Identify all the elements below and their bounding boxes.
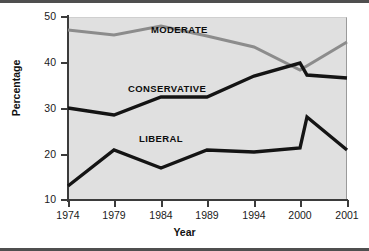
series-line-liberal xyxy=(68,117,347,186)
chart-figure: 50 40 30 20 10 Percentage 1974 1979 1984… xyxy=(0,0,369,251)
series-label-conservative: CONSERVATIVE xyxy=(128,83,206,94)
series-label-liberal: LIBERAL xyxy=(139,133,183,144)
series-lines xyxy=(0,0,369,251)
series-line-conservative xyxy=(68,63,347,115)
series-label-moderate: MODERATE xyxy=(151,24,208,35)
